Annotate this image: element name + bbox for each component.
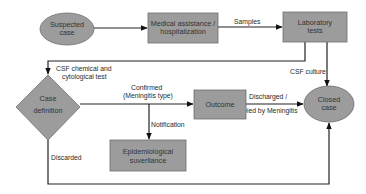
node-label-epidemiological-line2: suverllance bbox=[130, 156, 166, 165]
edge-confirmed: Confirmed (Meningitis type) bbox=[80, 84, 193, 104]
node-medical-assistance: Medical assistance / hospitalization bbox=[148, 13, 218, 43]
node-closed-case: Closed case bbox=[304, 86, 354, 122]
edge-label-csf-chemical-line2: cytological test bbox=[62, 73, 107, 81]
edge-label-confirmed-line1: Confirmed bbox=[131, 84, 163, 91]
node-case-definition: Case definition bbox=[16, 75, 80, 140]
node-label-medical-line2: hospitalization bbox=[160, 27, 206, 36]
node-suspected-case: Suspected case bbox=[40, 13, 94, 45]
edge-label-confirmed-line2: (Meningitis type) bbox=[123, 92, 173, 100]
meningitis-surveillance-flowchart: Samples CSF chemical and cytological tes… bbox=[0, 0, 366, 194]
node-label-laboratory-line2: tests bbox=[307, 26, 323, 35]
node-outcome: Outcome bbox=[194, 90, 246, 119]
edge-label-csf-chemical-line1: CSF chemical and bbox=[56, 65, 112, 72]
edge-label-csf-culture: CSF culture bbox=[290, 68, 326, 75]
node-laboratory-tests: Laboratory tests bbox=[283, 12, 347, 42]
edge-label-notification: Notification bbox=[151, 121, 185, 128]
edge-notification: Notification bbox=[149, 104, 185, 139]
node-label-closed-line2: case bbox=[321, 103, 336, 112]
node-epidemiological-surveillance: Epidemiological suverllance bbox=[110, 140, 186, 171]
edge-csf-chemical: CSF chemical and cytological test bbox=[48, 42, 305, 81]
edge-discarded: Discarded bbox=[48, 123, 329, 184]
edge-csf-culture: CSF culture bbox=[290, 42, 327, 86]
edge-label-discharged-line2: Died by Meningitis bbox=[242, 107, 298, 115]
node-label-case-definition-line1: Case bbox=[40, 94, 57, 103]
node-label-suspected-line2: case bbox=[59, 28, 74, 37]
edge-label-discarded: Discarded bbox=[51, 154, 82, 161]
node-label-epidemiological-line1: Epidemiological bbox=[123, 147, 174, 156]
edge-discharged: Discharged / Died by Meningitis bbox=[242, 93, 303, 115]
edge-samples: Samples bbox=[218, 18, 282, 27]
node-label-outcome: Outcome bbox=[205, 100, 234, 109]
edge-label-samples: Samples bbox=[234, 18, 261, 26]
node-label-case-definition-line2: definition bbox=[34, 106, 63, 115]
edge-label-discharged-line1: Discharged / bbox=[249, 93, 287, 101]
